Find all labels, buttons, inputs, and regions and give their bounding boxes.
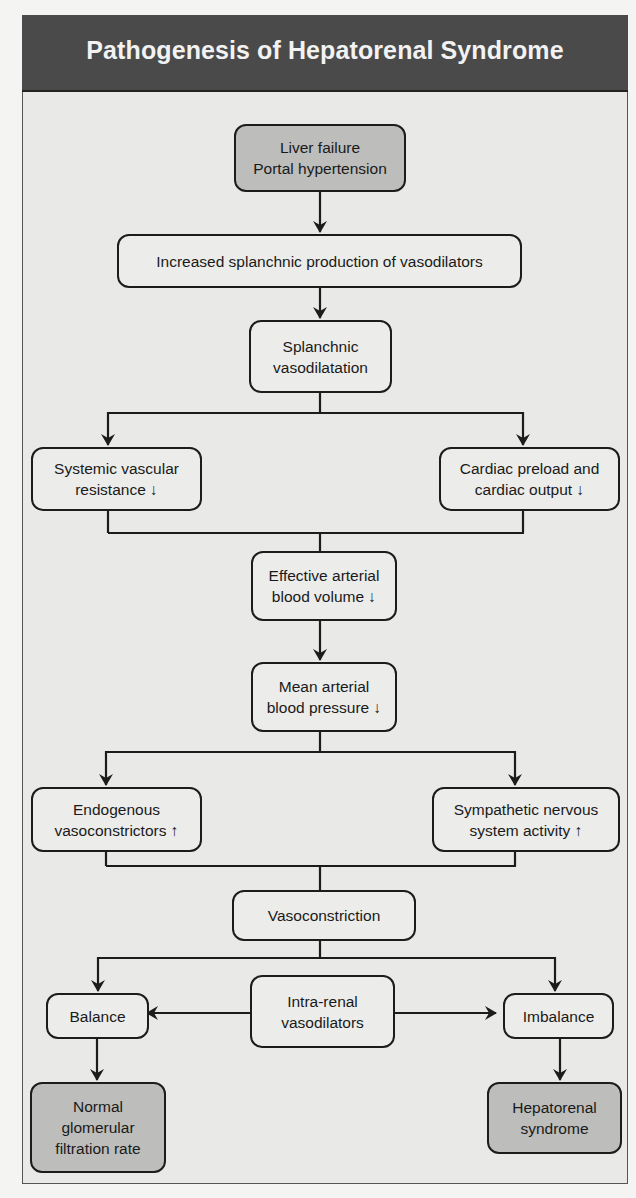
node-hepatorenal-syndrome: Hepatorenal syndrome: [487, 1082, 622, 1154]
node-balance: Balance: [46, 993, 149, 1039]
node-intra-renal-vasodilators: Intra-renal vasodilators: [250, 975, 395, 1048]
node-effective-arterial-volume: Effective arterial blood volume ↓: [251, 551, 397, 621]
node-sympathetic-activity: Sympathetic nervous system activity ↑: [432, 787, 620, 852]
node-splanchnic-vasodilatation: Splanchnic vasodilatation: [249, 320, 392, 393]
node-cardiac-preload: Cardiac preload and cardiac output ↓: [439, 447, 620, 511]
node-endogenous-vasoconstrictors: Endogenous vasoconstrictors ↑: [31, 787, 202, 852]
node-vasoconstriction: Vasoconstriction: [232, 890, 416, 941]
node-systemic-vascular-resistance: Systemic vascular resistance ↓: [31, 447, 202, 511]
node-vasodilator-production: Increased splanchnic production of vasod…: [117, 234, 522, 288]
node-normal-gfr: Normal glomerular filtration rate: [30, 1082, 166, 1173]
node-mean-arterial-pressure: Mean arterial blood pressure ↓: [251, 662, 397, 732]
node-liver-failure: Liver failure Portal hypertension: [234, 124, 406, 192]
node-imbalance: Imbalance: [503, 993, 614, 1039]
